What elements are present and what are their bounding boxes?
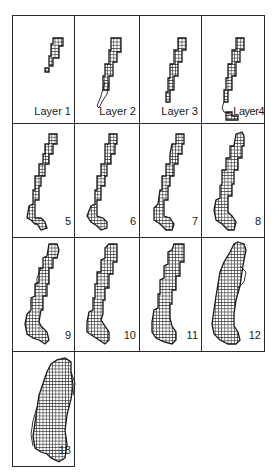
voxel-region (103, 38, 121, 90)
voxel-region (25, 244, 59, 344)
layer-panel-8: 8 (201, 123, 265, 238)
layer-panel-3: Layer 3 (139, 15, 202, 124)
layer-panel-13: 13 (12, 351, 75, 467)
panel-label: 13 (59, 445, 71, 456)
panel-label: Layer 3 (161, 106, 198, 117)
layer-panel-1: Layer 1 (12, 15, 75, 124)
panel-label: 6 (130, 216, 136, 227)
voxel-region (27, 134, 57, 230)
voxel-region (152, 244, 184, 344)
layer-panel-7: 7 (139, 123, 202, 238)
voxel-region (212, 242, 246, 344)
voxel-region (154, 134, 184, 230)
panel-label: 7 (192, 216, 198, 227)
panel-label: 10 (124, 330, 136, 341)
voxel-region (87, 134, 117, 230)
panel-label: 12 (249, 330, 261, 341)
panel-label: 8 (255, 216, 261, 227)
panel-label: Layer4 (233, 106, 264, 117)
layer-panel-4: Layer4 (201, 15, 265, 124)
panel-label: Layer 2 (99, 106, 136, 117)
voxel-region (214, 132, 244, 230)
layer-panel-2: Layer 2 (74, 15, 140, 124)
panel-label: 9 (65, 330, 71, 341)
voxel-region (166, 38, 186, 102)
voxel-region (45, 38, 63, 72)
layer-panel-9: 9 (12, 237, 75, 352)
layer-panel-5: 5 (12, 123, 75, 238)
voxel-region (87, 244, 117, 344)
panel-label: 11 (187, 330, 198, 341)
layer-panel-6: 6 (74, 123, 140, 238)
panel-label: 5 (65, 216, 71, 227)
panel-label: Layer 1 (34, 106, 71, 117)
layer-panel-11: 11 (139, 237, 202, 352)
layer-panel-12: 12 (201, 237, 265, 352)
layer-panel-10: 10 (74, 237, 140, 352)
